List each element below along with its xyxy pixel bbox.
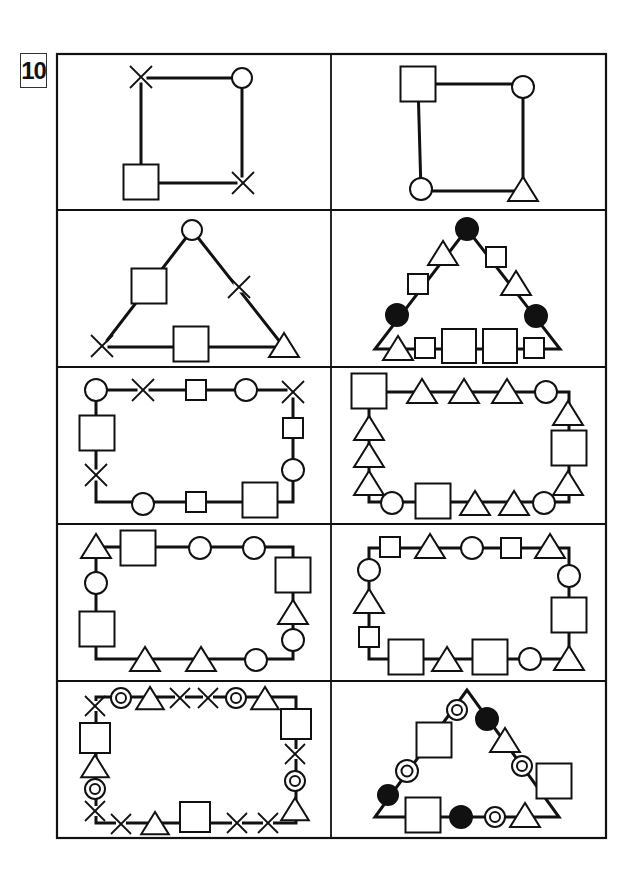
square-symbol (283, 418, 303, 438)
puzzle-cells (80, 66, 587, 834)
square-symbol (132, 269, 167, 304)
circle-symbol (232, 68, 252, 88)
double-circle-symbol (447, 700, 467, 720)
square-symbol (281, 709, 311, 739)
triangle-symbol (354, 589, 384, 613)
square-symbol (537, 764, 572, 799)
square-symbol (80, 416, 115, 451)
square-symbol (473, 640, 508, 675)
double-circle-inner (402, 766, 413, 777)
puzzle-cell-r4c2 (354, 534, 586, 675)
circle-symbol (358, 559, 380, 581)
circle-symbol (132, 493, 154, 515)
double-circle-symbol (512, 756, 532, 776)
circle-symbol (235, 379, 257, 401)
circle-symbol (512, 76, 534, 98)
square-symbol (186, 492, 206, 512)
square-symbol (416, 484, 451, 519)
square-symbol (552, 598, 587, 633)
square-symbol (408, 274, 428, 294)
square-symbol (180, 802, 210, 832)
puzzle-cell-r2c1 (91, 220, 299, 362)
filled-circle-symbol (525, 305, 547, 327)
square-symbol (380, 537, 400, 557)
square-symbol (186, 380, 206, 400)
square-symbol (524, 338, 544, 358)
puzzle-sheet (0, 0, 636, 892)
square-symbol (243, 483, 278, 518)
square-symbol (124, 165, 159, 200)
puzzle-cell-r5c2 (375, 690, 572, 833)
double-circle-inner (116, 693, 126, 703)
triangle-symbol (354, 443, 384, 467)
triangle-symbol (281, 798, 309, 820)
square-symbol (80, 723, 110, 753)
double-circle-symbol (85, 779, 105, 799)
puzzle-cell-r1c1 (124, 66, 255, 200)
square-symbol (417, 723, 452, 758)
double-circle-symbol (226, 688, 246, 708)
double-circle-inner (290, 776, 300, 786)
square-symbol (406, 798, 441, 833)
triangle-symbol (354, 416, 384, 440)
square-symbol (501, 538, 521, 558)
square-symbol (486, 247, 506, 267)
circle-symbol (282, 459, 304, 481)
square-symbol (483, 329, 517, 363)
circle-symbol (189, 537, 211, 559)
triangle-symbol (508, 177, 538, 201)
cross-symbol (228, 276, 250, 298)
circle-symbol (85, 572, 107, 594)
rectangle-path (369, 392, 569, 502)
filled-circle-symbol (378, 785, 398, 805)
triangle-symbol (501, 271, 531, 295)
circle-symbol (533, 492, 555, 514)
puzzle-cell-r1c2 (401, 67, 538, 202)
circle-symbol (519, 648, 541, 670)
filled-circle-symbol (456, 218, 478, 240)
triangle-symbol (535, 534, 565, 558)
triangle-symbol (510, 803, 540, 827)
circle-symbol (243, 537, 265, 559)
square-symbol (401, 67, 436, 102)
double-circle-inner (517, 761, 527, 771)
double-circle-inner (490, 812, 500, 822)
puzzle-cell-r3c1 (80, 379, 305, 518)
circle-symbol (182, 220, 202, 240)
puzzle-cell-r5c1 (80, 687, 311, 834)
circle-symbol (558, 565, 580, 587)
double-circle-symbol (396, 760, 418, 782)
square-symbol (80, 612, 115, 647)
circle-symbol (85, 379, 107, 401)
square-symbol (389, 640, 424, 675)
puzzle-cell-r4c1 (80, 531, 311, 672)
square-symbol (121, 531, 156, 566)
square-symbol (552, 431, 587, 466)
circle-symbol (245, 649, 267, 671)
double-circle-inner (452, 705, 462, 715)
triangle-symbol (269, 333, 299, 357)
double-circle-inner (90, 784, 100, 794)
triangle-symbol (354, 471, 384, 495)
double-circle-symbol (285, 771, 305, 791)
filled-circle-symbol (386, 304, 408, 326)
triangle-symbol (415, 534, 445, 558)
circle-symbol (535, 381, 557, 403)
circle-symbol (410, 178, 432, 200)
double-circle-symbol (485, 807, 505, 827)
square-symbol (174, 327, 209, 362)
triangle-symbol (553, 401, 583, 425)
square-symbol (352, 374, 387, 409)
circle-symbol (461, 537, 483, 559)
square-symbol (415, 338, 435, 358)
triangle-symbol (490, 728, 520, 752)
puzzle-cell-r2c2 (375, 218, 560, 363)
square-symbol (359, 627, 379, 647)
double-circle-inner (231, 693, 241, 703)
square-symbol (442, 329, 476, 363)
triangle-symbol (81, 755, 109, 777)
circle-symbol (282, 629, 304, 651)
filled-circle-symbol (450, 806, 472, 828)
square-symbol (276, 558, 311, 593)
filled-circle-symbol (476, 708, 498, 730)
